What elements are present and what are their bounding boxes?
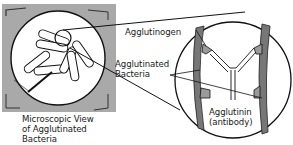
agglutinin-label-line1: Agglutinin bbox=[209, 108, 252, 117]
agglutinin-label-line2: (antibody) bbox=[209, 118, 252, 127]
microscopic-view-label-line2: of Agglutinated bbox=[22, 125, 87, 134]
agglutinated-bacteria-label-line2: Bacteria bbox=[115, 70, 150, 79]
agglutinogen-label: Agglutinogen bbox=[125, 28, 181, 37]
microscopic-view-label-line3: Bacteria bbox=[22, 135, 57, 144]
agglutinated-bacteria-label-line1: Agglutinated bbox=[115, 60, 169, 69]
agglutination-diagram: Agglutinogen Agglutinated Bacteria Agglu… bbox=[0, 0, 293, 145]
microscope-view-panel bbox=[2, 4, 116, 112]
microscopic-view-label-line1: Microscopic View bbox=[22, 115, 94, 124]
